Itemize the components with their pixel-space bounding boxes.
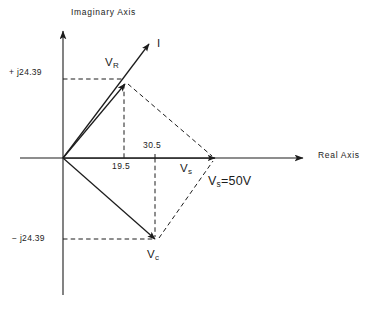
vector-label-vc: Vc <box>147 249 159 262</box>
source-voltage-value: =50V <box>221 174 251 188</box>
vector-label-vr-sub: R <box>113 61 119 70</box>
vector-label-vs-base: V <box>180 162 188 174</box>
vector-label-vs-sub: s <box>188 167 192 176</box>
imaginary-axis-label: Imaginary Axis <box>71 8 136 17</box>
tick-label-19-5: 19.5 <box>112 162 130 171</box>
vector-label-vs: Vs <box>180 163 192 176</box>
phasor-diagram-figure: Imaginary Axis Real Axis + j24.39 − j24.… <box>0 0 376 315</box>
vector-vc <box>63 158 155 239</box>
tick-label-positive-imag: + j24.39 <box>9 68 42 77</box>
vector-label-i: I <box>157 38 160 50</box>
source-voltage-annotation: Vs=50V <box>208 175 251 189</box>
real-axis-label: Real Axis <box>318 151 360 160</box>
vector-label-vr: VR <box>105 57 119 70</box>
tick-label-negative-imag: − j24.39 <box>12 234 45 243</box>
vector-label-vc-sub: c <box>155 253 159 262</box>
construction-lines <box>63 79 213 239</box>
tick-label-30-5: 30.5 <box>143 141 161 150</box>
vector-vr <box>63 84 125 158</box>
vector-label-vr-base: V <box>105 56 113 68</box>
vector-label-i-base: I <box>157 37 160 49</box>
dash-vr-to-vs <box>128 84 212 156</box>
phasor-vectors <box>63 44 215 239</box>
source-voltage-base: V <box>208 174 217 188</box>
vector-label-vc-base: V <box>147 248 155 260</box>
